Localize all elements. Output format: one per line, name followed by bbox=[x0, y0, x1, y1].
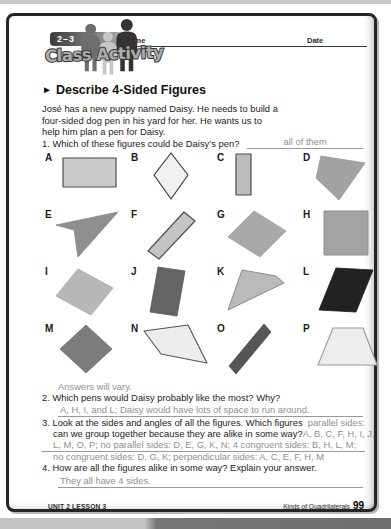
figure-label-K: K bbox=[217, 266, 227, 277]
section-arrow-icon: ► bbox=[42, 84, 52, 95]
figure-label-L: L bbox=[303, 266, 313, 277]
figure-cell-H: H bbox=[303, 209, 389, 266]
question-3-answer-4: no congruent sides: D, G, K; perpendicul… bbox=[42, 452, 365, 463]
figure-cell-D: D bbox=[303, 152, 389, 209]
figure-cell-O: O bbox=[217, 323, 303, 380]
figure-label-N: N bbox=[131, 323, 141, 334]
figure-cell-K: K bbox=[217, 266, 303, 323]
intro-line-1: José has a new puppy named Daisy. He nee… bbox=[42, 103, 312, 115]
question-3-answer-3: L, M, O, P; no parallel sides: D, E, G, … bbox=[42, 440, 365, 452]
intro-paragraph: José has a new puppy named Daisy. He nee… bbox=[42, 103, 312, 138]
figure-cell-C: C bbox=[217, 152, 303, 209]
figure-shape-G bbox=[227, 209, 297, 261]
page-content: 2–3 Class Activity Name bbox=[12, 19, 371, 506]
section-title: Describe 4-Sided Figures bbox=[56, 83, 206, 97]
logo-title: Class Activity bbox=[42, 36, 208, 70]
figure-cell-A: A bbox=[45, 152, 131, 209]
figure-label-E: E bbox=[45, 209, 55, 220]
question-3: 3. Look at the sides and angles of all t… bbox=[42, 418, 365, 463]
figure-shape-E bbox=[55, 209, 125, 261]
question-1: 1. Which of these figures could be Daisy… bbox=[42, 136, 363, 149]
footer-unit-lesson: UNIT 2 LESSON 3 bbox=[48, 503, 106, 510]
figure-shape-K bbox=[227, 266, 297, 318]
figure-cell-P: P bbox=[303, 323, 389, 380]
figure-cell-E: E bbox=[45, 209, 131, 266]
figure-label-J: J bbox=[131, 266, 141, 277]
svg-text:Class Activity: Class Activity bbox=[45, 43, 165, 66]
answers-vary-note: Answers will vary. bbox=[58, 381, 132, 392]
question-1-answer-blank: all of them bbox=[247, 136, 363, 149]
page-footer: UNIT 2 LESSON 3 Kinds of Quadrilaterals9… bbox=[48, 500, 364, 511]
figure-shape-I bbox=[55, 266, 125, 318]
question-4-answer-blank: They all have 4 sides. bbox=[58, 475, 363, 488]
class-activity-logo: 2–3 Class Activity bbox=[42, 19, 212, 79]
figure-cell-N: N bbox=[131, 323, 217, 380]
figure-shape-H bbox=[313, 209, 383, 261]
figure-cell-G: G bbox=[217, 209, 303, 266]
figure-label-H: H bbox=[303, 209, 313, 220]
figure-label-C: C bbox=[217, 152, 227, 163]
question-4-text: 4. How are all the figures alike in some… bbox=[42, 462, 363, 473]
bottom-edge-strip bbox=[0, 518, 391, 529]
question-4: 4. How are all the figures alike in some… bbox=[42, 462, 363, 488]
figure-label-F: F bbox=[131, 209, 141, 220]
question-1-text: 1. Which of these figures could be Daisy… bbox=[42, 138, 239, 149]
worksheet-page: 2–3 Class Activity Name bbox=[6, 13, 377, 512]
figure-shape-O bbox=[227, 323, 297, 375]
date-label: Date bbox=[307, 36, 323, 45]
figure-cell-M: M bbox=[45, 323, 131, 380]
figure-shape-B bbox=[141, 152, 211, 204]
figure-shape-L bbox=[313, 266, 383, 318]
figure-label-M: M bbox=[45, 323, 55, 334]
figure-label-P: P bbox=[303, 323, 313, 334]
figure-shape-J bbox=[141, 266, 211, 318]
question-2: 2. Which pens would Daisy probably like … bbox=[42, 392, 363, 417]
question-2-answer-blank: A, H, I, and L; Daisy would have lots of… bbox=[58, 404, 363, 417]
top-edge-strip bbox=[0, 0, 391, 4]
figure-cell-J: J bbox=[131, 266, 217, 323]
figure-shape-C bbox=[227, 152, 297, 204]
figure-cell-B: B bbox=[131, 152, 217, 209]
figure-cell-F: F bbox=[131, 209, 217, 266]
figure-label-O: O bbox=[217, 323, 227, 334]
figure-label-D: D bbox=[303, 152, 313, 163]
figure-label-I: I bbox=[45, 266, 55, 277]
footer-chapter: Kinds of Quadrilaterals99 bbox=[283, 500, 364, 511]
section-heading: ►Describe 4-Sided Figures bbox=[42, 83, 206, 97]
figures-grid: ABCDEFGHIJKLMNOP bbox=[45, 152, 389, 380]
question-2-text: 2. Which pens would Daisy probably like … bbox=[42, 392, 363, 403]
figure-shape-F bbox=[141, 209, 211, 261]
figure-shape-D bbox=[313, 152, 383, 204]
figure-shape-N bbox=[141, 323, 211, 375]
intro-line-2: four-sided dog pen in his yard for her. … bbox=[42, 115, 312, 127]
figure-shape-M bbox=[55, 323, 125, 375]
figure-shape-A bbox=[55, 152, 125, 204]
figure-shape-P bbox=[313, 323, 383, 375]
page-root: { "header": { "lesson_badge": "2–3", "lo… bbox=[0, 0, 391, 529]
figure-cell-L: L bbox=[303, 266, 389, 323]
figure-label-G: G bbox=[217, 209, 227, 220]
figure-cell-I: I bbox=[45, 266, 131, 323]
figure-label-A: A bbox=[45, 152, 55, 163]
figure-label-B: B bbox=[131, 152, 141, 163]
page-number: 99 bbox=[353, 500, 364, 511]
